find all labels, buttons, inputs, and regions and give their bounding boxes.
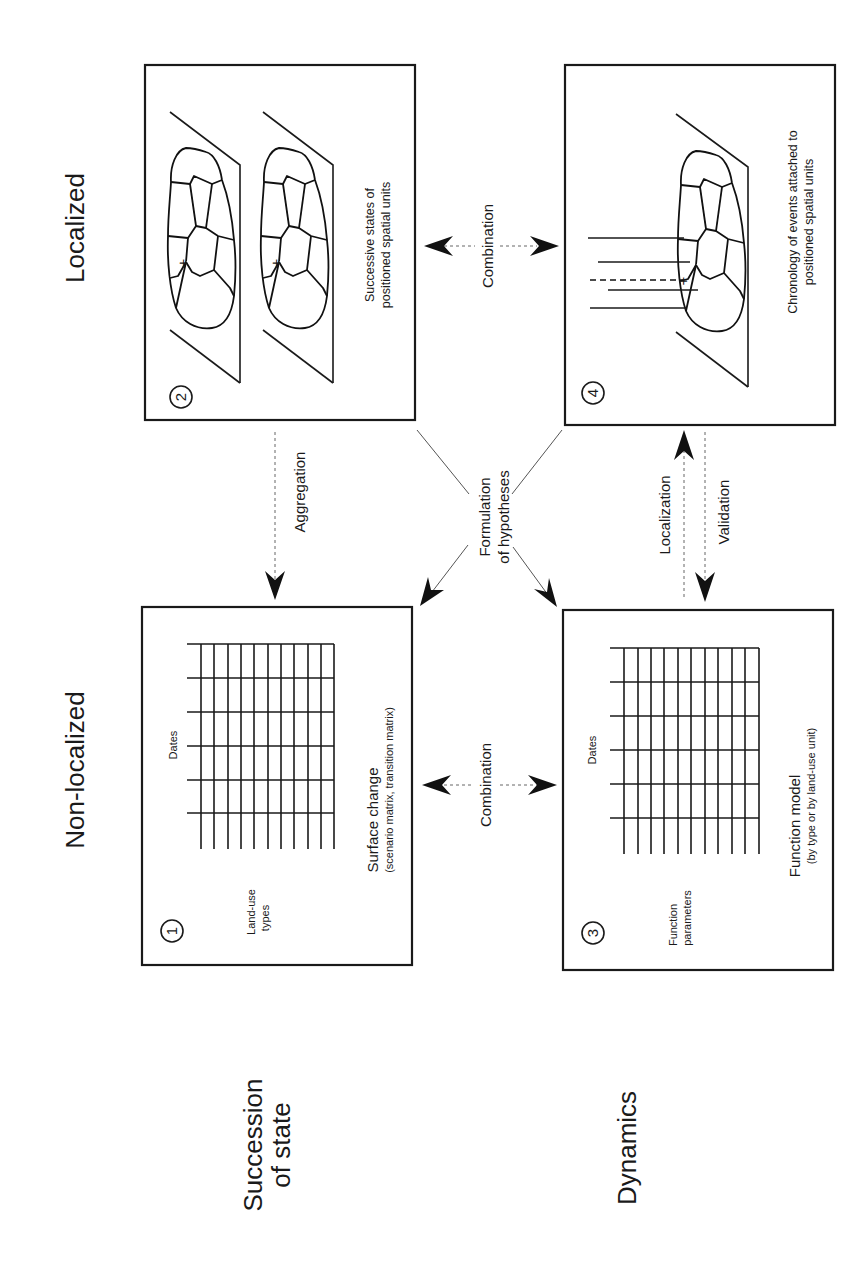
box-3-col-label: Dates: [586, 735, 598, 764]
localization-label: Localization: [656, 475, 673, 554]
arrowhead-down-icon: [265, 571, 285, 600]
aggregation-arrow: Aggregation: [265, 432, 308, 600]
box-1-row-label-1: Land-use: [245, 889, 257, 935]
box-1-subcaption: (scenario matrix, transition matrix): [383, 707, 395, 873]
arrowhead-left-icon: [424, 236, 453, 256]
box-4: + 4 Chronology of events attached to pos…: [565, 65, 835, 425]
box-3-subcaption: (by type or by land-use unit): [805, 728, 817, 864]
label-dynamics: Dynamics: [612, 1091, 642, 1205]
box-3-row-label-1: Function: [667, 904, 679, 946]
hypotheses-arrows: Formulation of hypotheses: [417, 430, 562, 607]
label-localized: Localized: [60, 173, 90, 283]
box-2-caption-line2: positioned spatial units: [379, 182, 393, 308]
box-3-number: 3: [584, 929, 601, 937]
box-2-number: 2: [172, 393, 189, 401]
validation-label: Validation: [715, 480, 732, 545]
box-3: Dates 3 Function parameters Function mod…: [563, 610, 833, 970]
arrowhead-up-icon: [674, 430, 694, 460]
hypotheses-label-line1: Formulation: [476, 477, 493, 556]
svg-text:+: +: [674, 276, 691, 285]
box-1-number: 1: [163, 927, 180, 935]
box-1-col-label: Dates: [167, 730, 179, 759]
box-4-caption-line2: positioned spatial units: [802, 159, 816, 285]
hypotheses-label-line2: of hypotheses: [495, 470, 512, 563]
box-4-caption-line1: Chronology of events attached to: [786, 130, 800, 314]
box-3-row-label-2: parameters: [681, 890, 693, 946]
label-succession-line1: Succession: [238, 1079, 268, 1212]
box-1: Dates 1 Land-use types Surface change (s…: [142, 607, 412, 965]
validation-arrow: Validation: [695, 432, 732, 602]
box-1-caption: Surface change: [364, 767, 381, 872]
box-4-number: 4: [584, 389, 601, 397]
svg-text:+: +: [174, 258, 191, 267]
diagram-stage: Localized Non-localized Succession of st…: [0, 0, 854, 1266]
arrowhead-down-right-icon: [534, 578, 557, 607]
combination-arrow-bottom: Combination: [422, 743, 557, 827]
diagram-canvas: Localized Non-localized Succession of st…: [0, 0, 854, 1266]
localization-arrow: Localization: [656, 430, 694, 598]
box-3-caption: Function model: [786, 775, 803, 878]
combination-bottom-label: Combination: [477, 743, 494, 827]
svg-text:+: +: [267, 258, 284, 267]
aggregation-label: Aggregation: [291, 452, 308, 533]
combination-arrow-top: Combination: [424, 204, 559, 288]
box-2: + + 2 Successive states of positioned sp…: [145, 65, 415, 420]
label-succession-line2: of state: [266, 1102, 296, 1187]
label-non-localized: Non-localized: [60, 691, 90, 849]
box-2-caption-line1: Successive states of: [363, 188, 377, 302]
box-1-row-label-2: types: [259, 904, 271, 931]
arrowhead-right-icon: [530, 236, 559, 256]
combination-top-label: Combination: [479, 204, 496, 288]
